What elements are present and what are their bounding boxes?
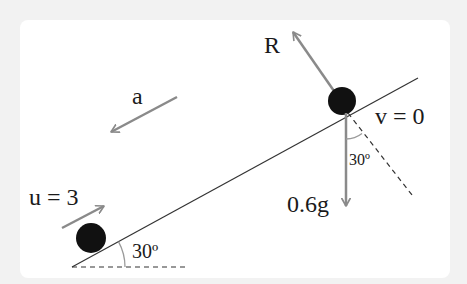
normal-angle-arc <box>346 134 362 140</box>
initial-velocity-label: u = 3 <box>29 185 79 209</box>
acceleration-arrow <box>111 97 177 132</box>
incline-angle-label: 30º <box>132 241 158 261</box>
weight-label: 0.6g <box>287 192 329 216</box>
inclined-plane-diagram <box>0 0 467 284</box>
incline-line <box>72 78 418 267</box>
particle-top <box>328 87 356 115</box>
reaction-force-arrow <box>293 32 334 91</box>
particle-bottom <box>76 223 106 253</box>
incline-angle-arc <box>119 242 126 267</box>
reaction-label: R <box>264 33 280 57</box>
final-velocity-label: v = 0 <box>375 104 425 128</box>
acceleration-label: a <box>132 84 143 108</box>
normal-angle-label: 30º <box>349 152 370 168</box>
